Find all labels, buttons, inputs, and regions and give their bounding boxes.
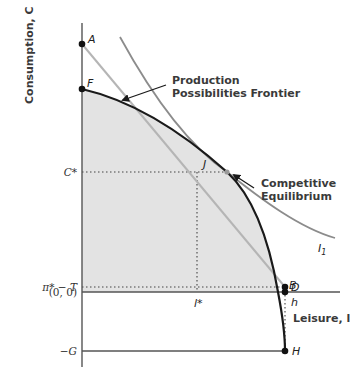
point-j-marker [224,169,229,174]
diagram-canvas: Consumption, C Production Possibilities … [0,0,360,388]
equilibrium-annotation-line1: Competitive [261,177,336,190]
c-star-tick-label: C* [64,166,78,178]
x-axis-label: Leisure, l [293,312,350,325]
indifference-curve-subscript: 1 [321,248,326,257]
ppf-arrow [123,85,166,100]
equilibrium-annotation-line2: Equilibrium [261,190,332,203]
point-a-marker [79,41,86,48]
ppf-diagram: Consumption, C Production Possibilities … [0,0,360,388]
point-f-label: F [87,77,94,90]
point-h-label: H [292,345,300,358]
point-a-label: A [87,33,96,46]
origin-tick-label: (0, 0) [49,286,77,298]
point-f-marker [79,86,86,93]
indifference-curve-label: I1 [318,242,326,257]
ppf-annotation-line2: Possibilities Frontier [172,87,301,100]
feasible-region [82,89,278,292]
point-b-marker [282,289,289,296]
y-axis-label: Consumption, C [23,6,36,104]
ppf-annotation-line1: Production [172,74,240,87]
point-b-label: B [289,279,297,292]
point-h-marker [282,348,289,355]
neg-g-tick-label: −G [60,345,77,357]
l-star-tick-label: l* [194,297,203,310]
h-tick-label: h [291,296,298,309]
